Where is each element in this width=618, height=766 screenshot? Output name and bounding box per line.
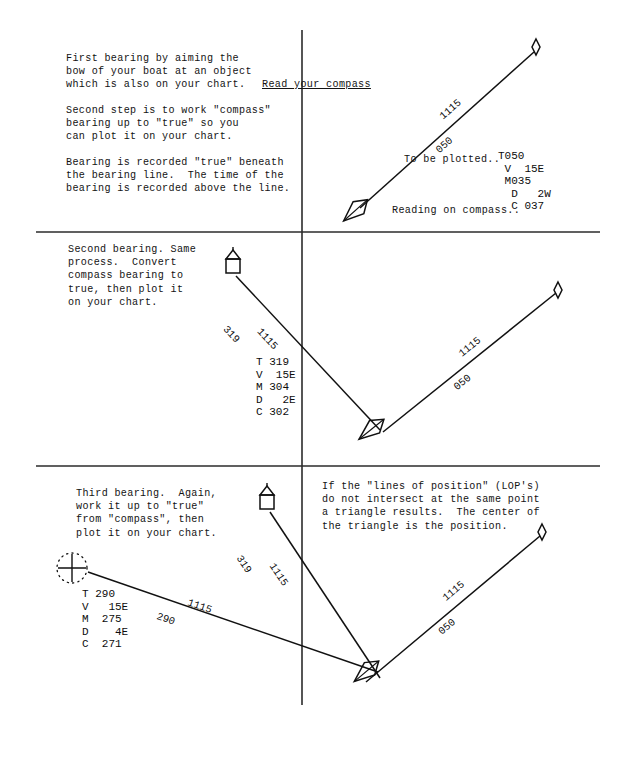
panel-3-label-290-bearing: 290: [155, 611, 206, 638]
panel-2-paragraph-1: Second bearing. Same process. Convert co…: [68, 243, 196, 309]
panel-3-paragraph-lop: If the "lines of position" (LOP's) do no…: [322, 480, 540, 533]
panel-3-label-050-time: 1115: [440, 578, 467, 603]
panel-2-label-right-bearing: 050: [452, 353, 498, 393]
panel-1-paragraph-3: Bearing is recorded "true" beneath the b…: [66, 156, 290, 196]
panel-3-bearing-work: T 290 V 15E M 275 D 4E C 271: [82, 588, 128, 651]
panel-3-label-050-bearing: 050: [436, 597, 482, 638]
panel-3-paragraph-1: Third bearing. Again, work it up to "tru…: [76, 487, 217, 540]
panel-1-bearing-work: T050 V 15E M035 D 2W C 037: [498, 150, 551, 213]
panel-1-paragraph-2: Second step is to work "compass" bearing…: [66, 104, 271, 144]
panel-1-label-bearing: 050: [434, 115, 479, 156]
panel-3-label-319-bearing: 319: [234, 553, 272, 601]
panel-1-note-to-be-plotted: To be plotted..: [404, 154, 500, 165]
panel-2-label-right-time: 1115: [456, 334, 483, 359]
panel-1-underlined-phrase: Read your compass: [262, 78, 371, 91]
navigation-diagram-page: First bearing by aiming the bow of your …: [0, 0, 618, 766]
panel-3-label-290-time: 1115: [186, 596, 214, 615]
panel-2-bearing-work: T 319 V 15E M 304 D 2E C 302: [256, 356, 296, 419]
panel-1-label-time: 1115: [437, 96, 464, 121]
panel-1-paragraph-1: First bearing by aiming the bow of your …: [66, 52, 252, 92]
